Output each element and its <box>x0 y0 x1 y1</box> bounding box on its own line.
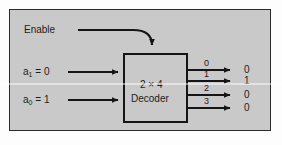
input-label-a0: a0 = 1 <box>23 94 49 108</box>
output-value-3: 0 <box>244 102 250 113</box>
output-value-1: 1 <box>244 75 250 86</box>
output-value-2: 0 <box>244 89 250 100</box>
decoder-block-line1: 2 × 4 <box>140 79 163 90</box>
input-a0-subscript: 0 <box>29 99 33 106</box>
output-index-0: 0 <box>204 58 209 68</box>
input-a0-value: 1 <box>44 94 50 105</box>
input-a1-equals: = <box>35 66 41 77</box>
output-index-3: 3 <box>204 96 209 106</box>
input-a1-value: 0 <box>44 66 50 77</box>
input-label-a1: a1 = 0 <box>23 66 49 80</box>
enable-wire <box>78 30 152 45</box>
output-index-1: 1 <box>204 69 209 79</box>
input-a1-subscript: 1 <box>29 71 33 78</box>
output-value-0: 0 <box>244 64 250 75</box>
enable-label: Enable <box>24 24 55 35</box>
input-a0-equals: = <box>35 94 41 105</box>
output-index-2: 2 <box>204 83 209 93</box>
decoder-block-line2: Decoder <box>131 93 169 104</box>
decoder-diagram-screenshot: Enable a1 = 0 a0 = 1 2 × 4 Decoder 0 1 2… <box>0 0 282 145</box>
